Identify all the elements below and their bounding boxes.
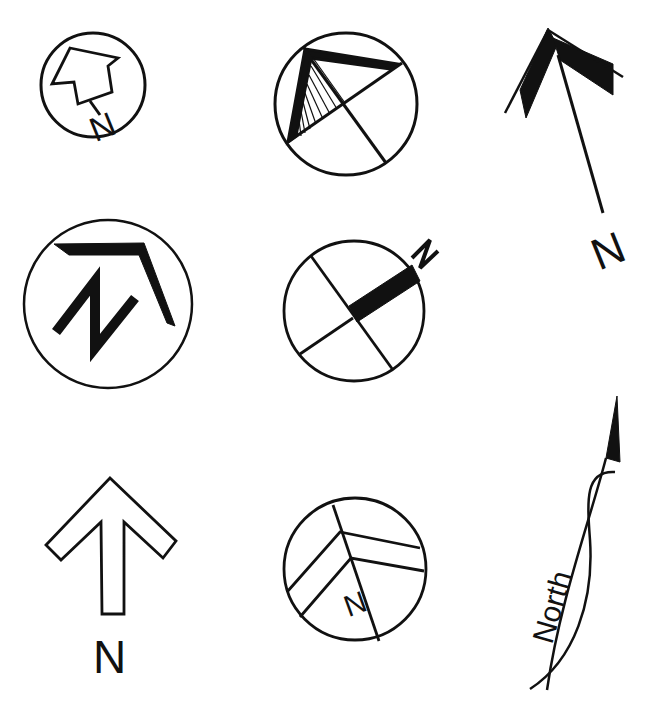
n-label-1: N	[84, 104, 121, 148]
north-arrow-curve-needle	[530, 396, 620, 690]
n-label-3: N	[584, 222, 632, 279]
north-arrow-diagram: N N	[0, 0, 651, 714]
north-arrow-circle-cross-bar	[284, 240, 438, 381]
north-word-label: North	[526, 567, 578, 647]
north-arrow-double-chevron	[505, 28, 623, 213]
north-arrow-outline-up	[46, 478, 176, 614]
n-label-6: N	[93, 631, 126, 683]
north-arrow-circle-large-N	[24, 220, 192, 388]
north-arrow-circle-hatched	[275, 33, 417, 175]
n-label-7: N	[339, 584, 371, 622]
